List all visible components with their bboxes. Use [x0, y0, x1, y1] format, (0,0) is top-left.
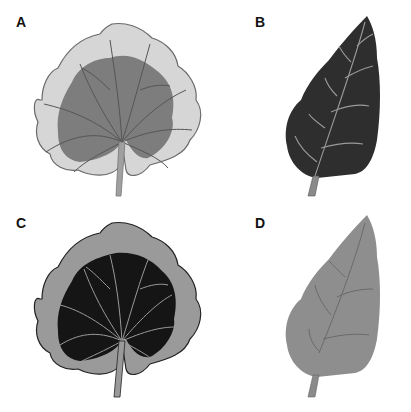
round-leaf-icon — [0, 0, 205, 205]
panel-b: B — [205, 0, 411, 205]
panel-c: C — [0, 205, 205, 412]
panel-a: A — [0, 0, 205, 205]
panel-d: D — [205, 205, 411, 412]
round-leaf-icon — [0, 205, 205, 412]
figure: A B — [0, 0, 411, 412]
ovate-leaf-icon — [205, 205, 411, 412]
ovate-leaf-icon — [205, 0, 411, 205]
